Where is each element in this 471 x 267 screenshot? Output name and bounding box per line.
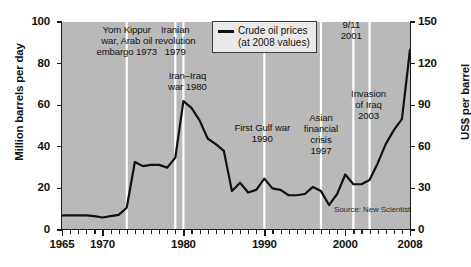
- x-tick-1989: [256, 230, 257, 234]
- x-label-2008: 2008: [387, 238, 433, 250]
- x-tick-1995: [305, 230, 306, 234]
- source-credit: Source: New Scientist: [334, 205, 410, 214]
- x-tick-1972: [119, 230, 120, 234]
- annotation-1980: Iran–Iraq war 1980: [156, 70, 218, 92]
- y-axis-right-title: US$ per barrel: [459, 27, 471, 177]
- y-tick-right-90: [410, 105, 415, 106]
- y-tick-right-60: [410, 146, 415, 147]
- x-tick-1981: [191, 230, 192, 234]
- y-label-right-90: 90: [418, 98, 450, 110]
- annotation-2003: Invasion of Iraq 2003: [340, 88, 398, 121]
- x-tick-1974: [135, 230, 136, 234]
- x-tick-1980: [183, 230, 184, 236]
- x-tick-1998: [329, 230, 330, 234]
- y-label-right-30: 30: [418, 181, 450, 193]
- x-tick-2002: [361, 230, 362, 234]
- x-tick-2004: [378, 230, 379, 234]
- x-label-2000: 2000: [322, 238, 368, 250]
- x-label-1980: 1980: [160, 238, 206, 250]
- x-tick-1990: [264, 230, 265, 236]
- x-tick-1993: [289, 230, 290, 234]
- x-tick-2001: [353, 230, 354, 234]
- x-tick-1971: [111, 230, 112, 234]
- y-label-left-20: 20: [20, 181, 50, 193]
- y-axis-right: [410, 22, 411, 230]
- x-tick-1978: [167, 230, 168, 234]
- y-tick-left-20: [57, 188, 62, 189]
- x-tick-1984: [216, 230, 217, 234]
- annotation-2001: 9/11 2001: [330, 19, 372, 41]
- y-tick-left-80: [57, 63, 62, 64]
- x-tick-1965: [62, 230, 63, 236]
- x-tick-1983: [208, 230, 209, 234]
- x-tick-1987: [240, 230, 241, 234]
- x-tick-1977: [159, 230, 160, 234]
- x-tick-2006: [394, 230, 395, 234]
- y-label-right-120: 120: [418, 57, 450, 69]
- x-tick-1979: [175, 230, 176, 234]
- y-axis-left-title: Million barrels per day: [13, 27, 25, 177]
- y-axis-left: [61, 22, 62, 230]
- chart-legend: Crude oil prices (at 2008 values): [212, 21, 317, 53]
- x-tick-1973: [127, 230, 128, 234]
- y-tick-right-150: [410, 21, 415, 22]
- x-tick-2005: [386, 230, 387, 234]
- x-tick-2008: [410, 230, 411, 236]
- y-label-left-0: 0: [20, 223, 50, 235]
- x-label-1990: 1990: [241, 238, 287, 250]
- x-tick-1982: [200, 230, 201, 234]
- x-tick-2000: [345, 230, 346, 236]
- y-label-right-60: 60: [418, 140, 450, 152]
- x-tick-1975: [143, 230, 144, 234]
- y-tick-right-30: [410, 188, 415, 189]
- legend-line-swatch: [218, 30, 234, 33]
- x-tick-1985: [224, 230, 225, 234]
- x-tick-1988: [248, 230, 249, 234]
- y-label-left-100: 100: [20, 15, 50, 27]
- x-tick-2003: [370, 230, 371, 234]
- y-label-right-0: 0: [418, 223, 450, 235]
- x-axis: [61, 229, 411, 230]
- y-tick-left-100: [57, 21, 62, 22]
- y-tick-left-40: [57, 146, 62, 147]
- legend-label: Crude oil prices (at 2008 values): [238, 25, 310, 48]
- x-tick-1968: [86, 230, 87, 234]
- x-label-1965: 1965: [39, 238, 85, 250]
- y-tick-left-60: [57, 105, 62, 106]
- x-tick-1994: [297, 230, 298, 234]
- x-tick-1999: [337, 230, 338, 234]
- x-tick-1976: [151, 230, 152, 234]
- x-tick-1966: [70, 230, 71, 234]
- annotation-1979: Iranian revolution 1979: [140, 24, 210, 57]
- x-tick-1996: [313, 230, 314, 234]
- x-tick-1986: [232, 230, 233, 234]
- y-tick-right-120: [410, 63, 415, 64]
- x-label-1970: 1970: [79, 238, 125, 250]
- y-label-right-150: 150: [418, 15, 450, 27]
- x-tick-1991: [272, 230, 273, 234]
- x-tick-1970: [102, 230, 103, 236]
- x-tick-1992: [281, 230, 282, 234]
- x-tick-1967: [78, 230, 79, 234]
- x-tick-1997: [321, 230, 322, 234]
- x-tick-1969: [94, 230, 95, 234]
- x-tick-2007: [402, 230, 403, 234]
